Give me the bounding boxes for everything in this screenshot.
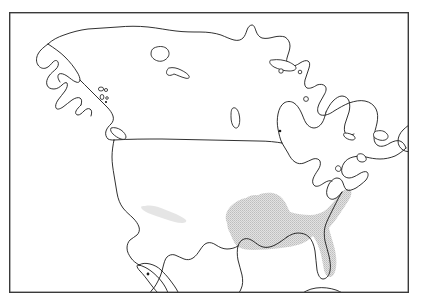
island-hudson-bay-dot bbox=[279, 130, 282, 133]
north-america-map-svg bbox=[0, 0, 421, 300]
island-dot-small-panhandle bbox=[105, 101, 107, 103]
island-arctic-small-1 bbox=[279, 69, 283, 73]
distribution-map-figure: North America Species Distribution Map O… bbox=[0, 0, 421, 300]
landmass-newfoundland bbox=[374, 131, 389, 141]
map-background bbox=[0, 0, 421, 300]
landmass-cape-breton bbox=[336, 166, 342, 172]
island-arctic-small-2 bbox=[298, 70, 302, 74]
island-baja-dot bbox=[147, 273, 150, 276]
island-revillagigedo bbox=[106, 97, 109, 100]
island-chichagof bbox=[104, 89, 107, 92]
island-baranof bbox=[98, 87, 103, 91]
island-southampton bbox=[304, 97, 309, 102]
island-prince-of-wales bbox=[100, 95, 104, 100]
lake-great-bear-lake bbox=[151, 47, 169, 62]
